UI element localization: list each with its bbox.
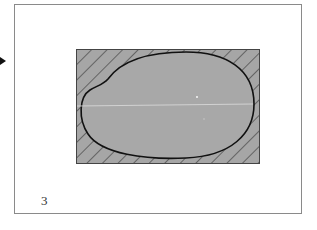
secondary-point (203, 118, 204, 119)
triangle-right-icon (0, 57, 6, 65)
page-number: 3 (41, 194, 48, 207)
blob-diagram (76, 49, 260, 164)
document-page: 3 (14, 4, 302, 214)
center-point (196, 96, 198, 98)
